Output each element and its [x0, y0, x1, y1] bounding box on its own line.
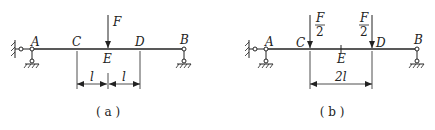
dimension-label-ed: l	[122, 70, 126, 84]
point-a-label: A	[30, 35, 40, 49]
support-a-pin-icon	[24, 47, 39, 68]
beam-diagrams: F A C E D B l l ( a )	[0, 0, 435, 130]
point-e-label: E	[336, 52, 346, 66]
force-c-numerator: F	[315, 11, 325, 25]
caption-b: ( b )	[320, 105, 345, 119]
point-b-label: B	[179, 33, 189, 47]
point-c-label: C	[72, 35, 81, 49]
force-label: F	[112, 15, 122, 29]
dimension-label-cd: 2l	[334, 70, 347, 84]
point-e-label: E	[102, 52, 112, 66]
caption-a: ( a )	[96, 105, 120, 119]
point-a-label: A	[264, 35, 274, 49]
panel-b: F 2 F 2 A C E D B 2l ( b )	[245, 11, 424, 119]
point-b-label: B	[413, 33, 423, 47]
support-a-wall-icon	[245, 40, 264, 58]
support-b-roller-icon	[176, 47, 191, 68]
force-c-denominator: 2	[316, 25, 324, 39]
force-d-denominator: 2	[360, 25, 368, 39]
support-a-pin-icon	[258, 47, 273, 68]
support-b-roller-icon	[409, 47, 424, 68]
point-c-label: C	[296, 36, 305, 50]
point-d-label: D	[375, 36, 386, 50]
support-a-wall-icon	[11, 40, 30, 58]
force-d-numerator: F	[359, 11, 369, 25]
point-d-label: D	[134, 35, 145, 49]
dimension-label-ce: l	[90, 70, 94, 84]
panel-a: F A C E D B l l ( a )	[11, 15, 191, 119]
